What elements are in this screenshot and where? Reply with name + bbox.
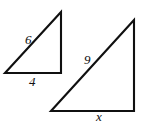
large-triangle-hypotenuse-label: 9 xyxy=(84,53,91,66)
small-triangle-hypotenuse-label: 6 xyxy=(25,33,32,46)
triangles-canvas xyxy=(0,0,143,124)
small-triangle-base-label: 4 xyxy=(29,75,36,88)
large-triangle-outline xyxy=(51,20,134,111)
small-triangle-outline xyxy=(5,12,61,73)
similar-triangles-figure: 6 4 9 x xyxy=(0,0,143,124)
large-triangle-base-label: x xyxy=(96,110,102,123)
